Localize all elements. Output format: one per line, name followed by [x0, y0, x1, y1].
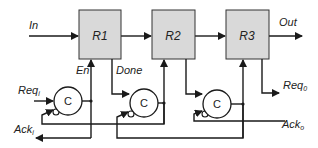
- out-label: Out: [279, 16, 298, 28]
- c-element-3-label: C: [213, 98, 221, 110]
- en-label: En: [76, 64, 89, 76]
- register-r3: R3: [226, 10, 269, 59]
- req-out-label: Req0: [283, 79, 307, 92]
- pipeline-diagram: R1 R2 R3 C C C In Out: [0, 0, 318, 148]
- req-out-subscript: 0: [303, 85, 307, 92]
- r2-done-wire: [186, 59, 202, 94]
- register-r1-label: R1: [92, 29, 107, 43]
- req-in-label: Reqi: [18, 84, 40, 97]
- c-element-2-label: C: [140, 97, 148, 109]
- ack-out-text: Ack: [281, 118, 301, 130]
- c-element-3: C: [203, 90, 231, 118]
- req-in-subscript: i: [38, 90, 40, 97]
- register-r2-label: R2: [165, 29, 181, 43]
- c-element-2: C: [130, 89, 158, 117]
- ack-in-text: Ack: [13, 123, 33, 135]
- in-label: In: [29, 19, 38, 31]
- register-r3-label: R3: [239, 29, 255, 43]
- c-element-1-label: C: [64, 95, 72, 107]
- ack-out-label: Acko: [281, 118, 304, 131]
- ack-out-subscript: o: [300, 124, 304, 131]
- register-r1: R1: [79, 10, 121, 59]
- req-in-text: Req: [18, 84, 39, 96]
- req-out-text: Req: [283, 79, 304, 91]
- register-r2: R2: [152, 10, 195, 59]
- junction-dot: [162, 101, 165, 104]
- ack-in-subscript: i: [32, 129, 34, 136]
- done-label: Done: [116, 64, 142, 76]
- ack-in-label: Acki: [13, 123, 34, 136]
- req-out-wire: [262, 59, 279, 93]
- junction-dot: [241, 102, 244, 105]
- junction-dot: [89, 99, 92, 102]
- c-element-1: C: [54, 87, 82, 115]
